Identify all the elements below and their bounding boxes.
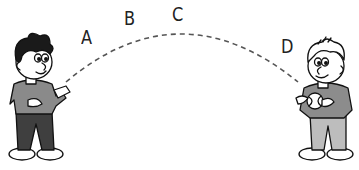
point-label-a: A xyxy=(81,28,92,47)
right-boy-figure xyxy=(296,37,353,160)
point-label-d: D xyxy=(281,37,293,56)
point-label-b: B xyxy=(124,9,135,28)
trajectory-arc xyxy=(66,34,298,82)
illustration xyxy=(0,0,359,170)
diagram-canvas: A B C D xyxy=(0,0,359,170)
point-label-c: C xyxy=(172,5,183,24)
left-boy-figure xyxy=(9,33,70,160)
